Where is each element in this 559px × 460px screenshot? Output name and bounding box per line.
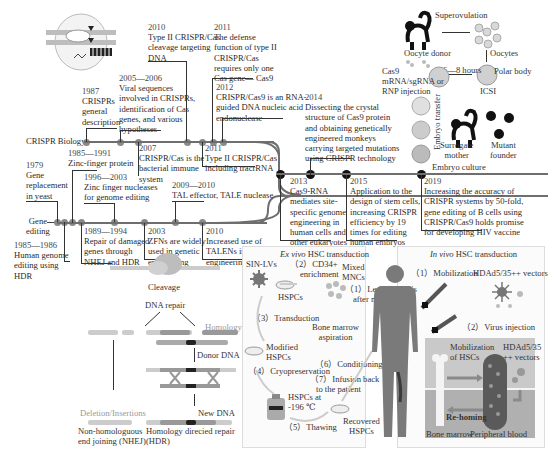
hdr-crossover-icon — [146, 368, 236, 392]
nhej-label: Non-homologuous end joining (NHEJ) — [78, 426, 146, 446]
invivo-step1-label: （1）Mobilization — [411, 268, 478, 278]
event-2005-2006: 2005—2006 Viral sequences involved in CR… — [119, 73, 195, 134]
new-dna-label: New DNA — [198, 408, 235, 418]
exvivo-flow-arrows — [242, 246, 362, 446]
event-1985-1986: 1985—1986 Human genome editing using HDR — [14, 240, 69, 281]
superovulation-label: Superovulation — [435, 10, 488, 20]
event-1996-2003: 1996—2003 Zinc finger nucleases for geno… — [84, 172, 158, 203]
cas9-cleavage-icon — [110, 252, 220, 282]
event-2010-top: 2010 Type II CRISPR/Cas cleavage targeti… — [148, 22, 220, 63]
rehoming-label: Re-homing — [446, 412, 487, 422]
oocyte-donor-monkey-icon — [400, 12, 434, 50]
event-1987: 1987 CRISPRs general description — [82, 86, 120, 127]
invivo-step2-label: （2）Virus injection — [462, 322, 535, 332]
bone-marrow-label: Bone marrow — [426, 429, 473, 439]
mutant-founder-monkeys-icon — [485, 110, 519, 142]
event-2014: 2014 Dissecting the crystal structure of… — [305, 92, 399, 163]
syringe-1-icon — [420, 280, 450, 310]
track-label-crispr-biology: CRISPR Biology — [26, 136, 85, 146]
icsi-label: ICSI — [480, 86, 496, 96]
dna-repair-label: DNA repair — [145, 300, 185, 310]
syringe-2-icon — [430, 312, 460, 334]
hdr-label: Homology direcied repair (HDR) — [146, 426, 235, 446]
oocyte-donor-label: Oocyte donor — [404, 48, 451, 58]
embryo-culture-label: Embryo culture — [432, 162, 486, 172]
event-2011-top: 2011 The defense function of type II CRI… — [214, 22, 277, 83]
peripheral-blood-label: Peripheral blood — [470, 429, 527, 439]
oocytes-label: Oocytes — [490, 48, 518, 58]
event-2012: 2012 CRISPR/Cas9 is an RNA- guided DNA n… — [216, 82, 307, 123]
mutant-founder-label: Mutant founder — [490, 140, 517, 160]
event-2009-2010: 2009—2010 TAL effector, TALE nuclease — [172, 180, 273, 200]
donor-dna-label: Donor DNA — [197, 350, 240, 360]
hdad-vector-icon — [490, 280, 530, 310]
deletion-insertions-label: Deletion/Insertions — [80, 408, 146, 418]
repair-arrows — [125, 310, 215, 330]
human-body-icon — [370, 262, 420, 442]
oocytes-icon — [473, 20, 503, 48]
event-1979: 1979 Gene replacement in yeast — [26, 160, 68, 201]
track-label-gene-editing: Gene editing — [26, 216, 50, 236]
embryo-stages-icon — [410, 96, 432, 166]
injection-label: Cas9 mRNA/sgRNA or RNP injection — [382, 66, 444, 96]
cleavage-label: Cleavage — [148, 282, 180, 292]
polar-body-label: Polar body — [494, 66, 531, 76]
in-vivo-title: In vivo HSC transduction — [430, 249, 517, 259]
cas9-complex-illustration — [46, 8, 116, 73]
vectors-label: HDAd5/35++ vectors — [473, 268, 548, 278]
event-1985-1991: 1985—1991 Zinc-finger protein — [68, 148, 134, 168]
surrogate-mother-label: Surrogate mother — [440, 140, 473, 160]
